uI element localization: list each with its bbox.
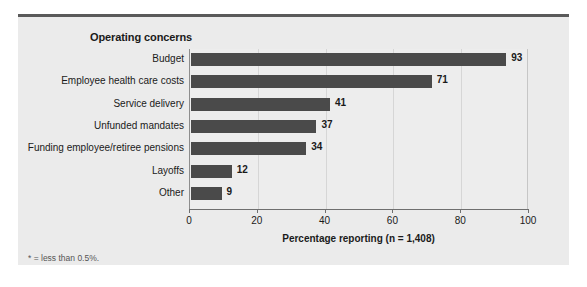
x-tick-mark	[460, 209, 461, 213]
category-label: Service delivery	[19, 98, 184, 109]
category-label: Employee health care costs	[19, 75, 184, 86]
x-tick-label: 60	[387, 215, 398, 226]
clipped-top-text	[0, 0, 587, 8]
category-label: Budget	[19, 53, 184, 64]
x-tick-mark	[325, 209, 326, 213]
bar	[191, 165, 232, 178]
x-tick-label: 20	[251, 215, 262, 226]
bar-value-label: 37	[321, 119, 332, 130]
bar	[191, 120, 316, 133]
bar-value-label: 41	[335, 97, 346, 108]
bar	[191, 142, 306, 155]
category-label: Funding employee/retiree pensions	[19, 142, 184, 153]
bar-value-label: 12	[237, 164, 248, 175]
bar-value-label: 34	[311, 141, 322, 152]
plot-area: 9371413734129	[189, 49, 528, 209]
bar	[191, 187, 222, 200]
x-tick-mark	[392, 209, 393, 213]
category-axis-labels: BudgetEmployee health care costsService …	[18, 49, 184, 209]
x-axis-line	[189, 209, 528, 210]
x-tick-mark	[528, 209, 529, 213]
footnote: * = less than 0.5%.	[28, 253, 99, 263]
bar	[191, 75, 432, 88]
bar	[191, 98, 330, 111]
bar-value-label: 71	[437, 74, 448, 85]
bar-row: 34	[190, 138, 529, 160]
bar-value-label: 93	[511, 52, 522, 63]
bar-value-label: 9	[227, 186, 233, 197]
bar-row: 12	[190, 161, 529, 183]
bar-row: 37	[190, 116, 529, 138]
x-tick-label: 80	[455, 215, 466, 226]
x-tick-mark	[257, 209, 258, 213]
x-axis-title: Percentage reporting (n = 1,408)	[189, 233, 528, 244]
category-label: Unfunded mandates	[19, 120, 184, 131]
x-tick-label: 100	[520, 215, 537, 226]
x-tick-label: 0	[186, 215, 192, 226]
category-label: Other	[19, 187, 184, 198]
category-label: Layoffs	[19, 165, 184, 176]
figure-panel: Operating concerns BudgetEmployee health…	[18, 14, 569, 265]
chart-title: Operating concerns	[90, 31, 192, 43]
bar-row: 93	[190, 49, 529, 71]
bar-row: 41	[190, 94, 529, 116]
bar	[191, 53, 506, 66]
bar-row: 9	[190, 183, 529, 205]
bar-row: 71	[190, 71, 529, 93]
x-tick-label: 40	[319, 215, 330, 226]
x-tick-mark	[189, 209, 190, 213]
